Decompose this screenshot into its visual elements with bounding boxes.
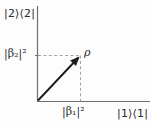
x-axis-tick-label-text: |β₁|² [62, 105, 85, 118]
y-axis-label: |2⟩⟨2| [4, 8, 35, 19]
x-axis-label: |1⟩⟨1| [117, 108, 148, 119]
x-axis-label-text: |1⟩⟨1| [117, 107, 148, 120]
rho-point-label: ρ [84, 47, 90, 58]
y-axis-tick-label-text: |β₂|² [4, 47, 27, 60]
quantum-state-diagram: |2⟩⟨2| |1⟩⟨1| |β₂|² |β₁|² ρ [0, 0, 153, 127]
state-vector-arrow [38, 58, 79, 101]
y-axis-label-text: |2⟩⟨2| [4, 7, 35, 20]
rho-point-label-text: ρ [84, 46, 90, 59]
x-axis-tick-label: |β₁|² [62, 106, 85, 117]
y-axis-tick-label: |β₂|² [4, 48, 27, 59]
